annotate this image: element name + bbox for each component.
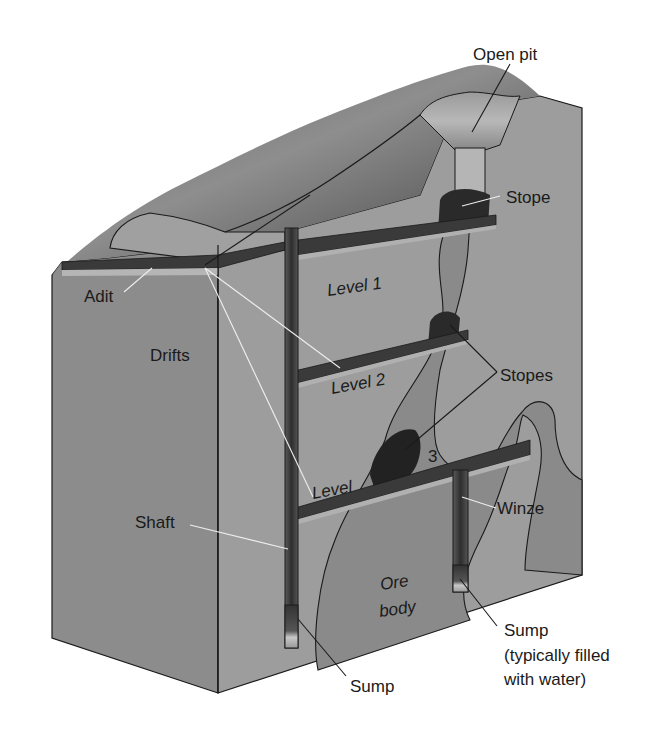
label-shaft: Shaft	[135, 513, 175, 532]
label-stope: Stope	[506, 188, 550, 207]
label-ore-body-line1: Ore	[379, 571, 410, 594]
rock-face-left	[52, 245, 218, 693]
label-sump-right-line3: with water)	[503, 670, 586, 689]
winze-sump	[453, 565, 468, 592]
shaft	[285, 228, 298, 648]
shaft-sump	[285, 605, 298, 648]
label-sump-right-line2: (typically filled	[504, 646, 610, 665]
label-sump-right-line1: Sump	[504, 621, 548, 640]
label-drifts: Drifts	[150, 346, 190, 365]
label-sump-left: Sump	[350, 677, 394, 696]
label-level3-number: 3	[428, 447, 437, 466]
mine-cross-section-diagram: Open pit Stope Adit Level 1 Drifts Level…	[0, 0, 662, 737]
label-winze: Winze	[497, 499, 544, 518]
label-open-pit: Open pit	[473, 45, 538, 64]
label-adit: Adit	[84, 287, 114, 306]
label-stopes: Stopes	[500, 366, 553, 385]
